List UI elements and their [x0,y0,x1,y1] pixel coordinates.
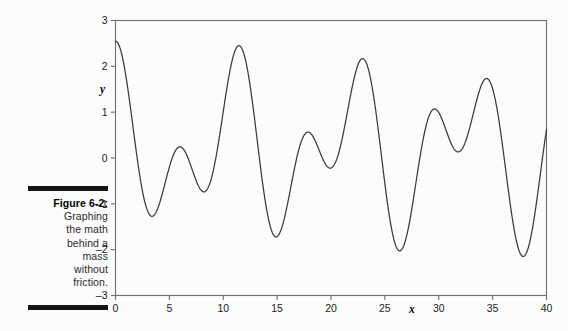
caption-top-rule [28,186,108,191]
x-tick-label: 25 [379,302,391,314]
caption-bottom-rule-bar [28,305,108,310]
y-axis-ticks [111,21,116,296]
caption-line-6: friction. [28,276,108,289]
y-tick-label: 1 [102,106,108,118]
x-tick-label: 40 [541,302,553,314]
data-curve [116,41,547,256]
caption-text: Figure 6-2: Graphing the math behind a m… [28,197,108,289]
y-axis-title: y [98,83,106,96]
plot-frame [116,21,547,296]
caption-line-2: the math [28,223,108,236]
x-tick-label: 30 [433,302,445,314]
x-tick-label: 0 [113,302,119,314]
caption-line-1: Graphing [28,210,108,223]
y-tick-label: 0 [102,152,108,164]
y-tick-label: 2 [102,60,108,72]
x-tick-label: 10 [217,302,229,314]
x-tick-label: 5 [166,302,172,314]
x-axis-title: x [408,303,415,315]
caption-line-5: without [28,263,108,276]
x-axis-ticks [116,296,547,301]
caption-line-4: mass [28,250,108,263]
y-tick-label: –3 [96,289,108,301]
figure-root: Figure 6-2: Graphing the math behind a m… [0,0,568,331]
caption-figure-label: Figure 6-2: [28,197,108,210]
y-tick-label: 3 [102,14,108,26]
x-tick-label: 15 [271,302,283,314]
x-tick-label: 20 [325,302,337,314]
x-tick-label: 35 [487,302,499,314]
caption-line-3: behind a [28,237,108,250]
x-axis-tick-labels: 0510152025303540 [113,302,553,314]
figure-caption-block: Figure 6-2: Graphing the math behind a m… [28,186,108,289]
caption-bottom-rule [28,305,108,310]
